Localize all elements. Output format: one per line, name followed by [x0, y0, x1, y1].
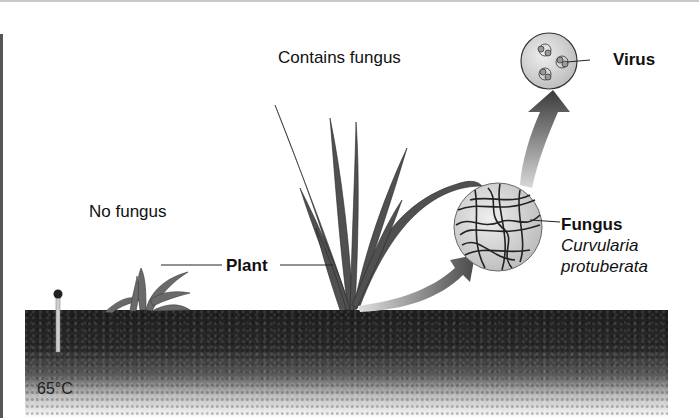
label-fungus: Fungus — [561, 215, 622, 235]
small-plant — [105, 268, 190, 313]
label-fungus-genus: Curvularia — [561, 236, 638, 256]
label-plant: Plant — [226, 256, 268, 276]
label-virus: Virus — [613, 50, 655, 70]
label-no-fungus: No fungus — [89, 202, 167, 222]
virus-circle — [521, 33, 590, 89]
arrow-fungus-to-virus — [520, 90, 570, 188]
thermometer-icon — [54, 290, 63, 353]
fungus-circle — [454, 183, 560, 271]
label-soil-temperature: 65°C — [37, 380, 73, 398]
label-fungus-species: protuberata — [561, 257, 648, 277]
figure: Contains fungus No fungus Plant Virus Fu… — [0, 0, 699, 418]
label-contains-fungus: Contains fungus — [278, 48, 401, 68]
